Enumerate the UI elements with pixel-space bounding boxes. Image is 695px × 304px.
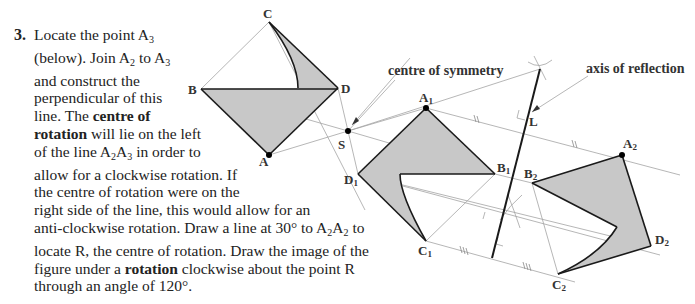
arrowhead-icon — [532, 105, 540, 112]
label-L: L — [529, 114, 538, 129]
label-A: A — [259, 154, 269, 169]
label-D1: D1 — [344, 172, 358, 188]
geometry-diagram: C B D A S L A1 B1 D1 C1 A2 B2 D2 C2 cent… — [0, 0, 695, 304]
label-S: S — [338, 137, 345, 152]
annotation-axis-of-reflection: axis of reflection — [586, 61, 685, 76]
annotation-centre-of-symmetry: centre of symmetry — [388, 63, 504, 78]
point-S — [345, 128, 351, 134]
label-C1: C1 — [418, 243, 432, 259]
point-A2 — [619, 152, 625, 158]
label-C: C — [263, 6, 272, 21]
label-B1: B1 — [497, 160, 511, 176]
label-D: D — [341, 81, 350, 96]
label-B: B — [188, 82, 197, 97]
label-D2: D2 — [655, 232, 669, 248]
label-B2: B2 — [524, 166, 538, 182]
label-A1: A1 — [419, 90, 433, 106]
label-A2: A2 — [623, 136, 637, 152]
